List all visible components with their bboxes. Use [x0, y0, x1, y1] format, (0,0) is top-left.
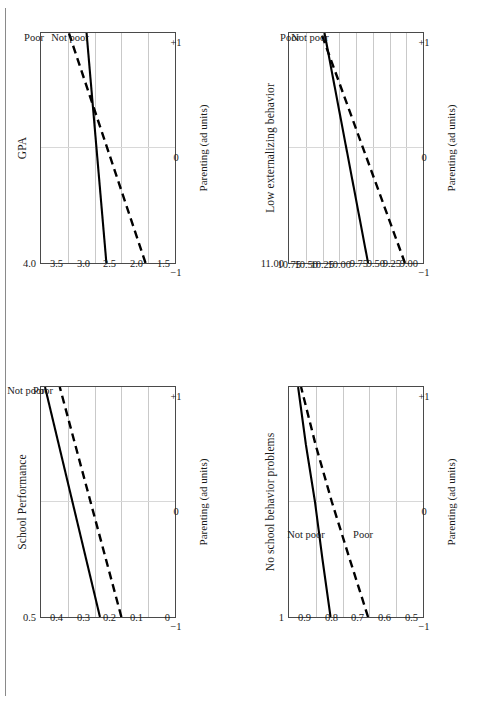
- x-tick-label: 0: [173, 149, 178, 163]
- y-tick-label: 1: [279, 613, 288, 624]
- x-tick-label: +1: [170, 388, 181, 402]
- y-tick-label: 3.5: [50, 259, 67, 270]
- x-tick-label: −1: [418, 618, 429, 632]
- y-tick-label: 2.0: [130, 259, 147, 270]
- x-axis-label: Parenting (ad units): [445, 32, 457, 264]
- series-line-poor: [69, 33, 146, 263]
- y-tick-label: 0.3: [76, 613, 93, 624]
- plot-area: [288, 386, 424, 618]
- series-label: Not poor: [51, 32, 89, 43]
- chart-school-performance: School Performance 00.10.20.30.40.5 −10+…: [14, 372, 210, 664]
- panel-school-performance: School Performance 00.10.20.30.40.5 −10+…: [14, 372, 214, 672]
- x-tick-label: +1: [170, 34, 181, 48]
- series-line-poor: [301, 387, 368, 617]
- chart-title: GPA: [16, 32, 28, 264]
- y-tick-label: 0.4: [50, 613, 67, 624]
- series-line-poor: [60, 387, 122, 617]
- series-lines: [41, 33, 175, 263]
- x-tick-label: −1: [418, 264, 429, 278]
- x-tick-label: −1: [170, 264, 181, 278]
- series-label: Poor: [353, 529, 373, 540]
- y-tick-label: 0.6: [378, 613, 395, 624]
- y-tick-label: 0.1: [130, 613, 147, 624]
- plot-area: [288, 32, 424, 264]
- series-line-not-poor: [87, 33, 107, 263]
- x-axis-label: Parenting (ad units): [197, 386, 209, 618]
- series-lines: [289, 33, 423, 263]
- series-label: Poor: [280, 32, 300, 43]
- y-tick-label: 11.00: [261, 259, 288, 270]
- panel-gpa: GPA 1.52.02.53.03.54.0 −10+1 Parenting (…: [14, 18, 214, 318]
- plot-area: [40, 386, 176, 618]
- x-tick-label: −1: [170, 618, 181, 632]
- y-tick-label: 0.5: [23, 613, 40, 624]
- y-tick-label: 0.2: [103, 613, 120, 624]
- y-tick-label: 0.9: [298, 613, 315, 624]
- chart-title: No school behavior problems: [264, 386, 276, 618]
- x-tick-label: +1: [418, 388, 429, 402]
- panel-no-school-behavior-problems: No school behavior problems 0.50.60.70.8…: [262, 372, 462, 672]
- y-tick-label: 0.7: [351, 613, 368, 624]
- page-top-rule: [5, 8, 6, 696]
- x-tick-label: 0: [421, 149, 426, 163]
- series-lines: [41, 387, 175, 617]
- x-tick-label: 0: [421, 503, 426, 517]
- series-label: Not poor: [287, 529, 325, 540]
- chart-title: Low externalizing behavior: [264, 32, 276, 264]
- plot-area: [40, 32, 176, 264]
- y-tick-label: 0.8: [324, 613, 341, 624]
- series-lines: [289, 387, 423, 617]
- x-tick-label: 0: [173, 503, 178, 517]
- y-tick-label: 2.5: [103, 259, 120, 270]
- chart-gpa: GPA 1.52.02.53.03.54.0 −10+1 Parenting (…: [14, 18, 210, 310]
- series-label: Poor: [33, 385, 53, 396]
- y-tick-label: 3.0: [76, 259, 93, 270]
- chart-title: School Performance: [16, 386, 28, 618]
- series-line-not-poor: [298, 387, 330, 617]
- y-tick-label: 4.0: [23, 259, 40, 270]
- x-axis-label: Parenting (ad units): [445, 386, 457, 618]
- chart-externalizing: Low externalizing behavior 9.009.259.509…: [262, 18, 458, 310]
- series-label: Poor: [24, 32, 44, 43]
- series-line-poor: [321, 33, 405, 263]
- x-tick-label: +1: [418, 34, 429, 48]
- series-line-not-poor: [325, 33, 369, 263]
- x-axis-label: Parenting (ad units): [197, 32, 209, 264]
- chart-behavior-problems: No school behavior problems 0.50.60.70.8…: [262, 372, 458, 664]
- panel-low-externalizing-behavior: Low externalizing behavior 9.009.259.509…: [262, 18, 462, 318]
